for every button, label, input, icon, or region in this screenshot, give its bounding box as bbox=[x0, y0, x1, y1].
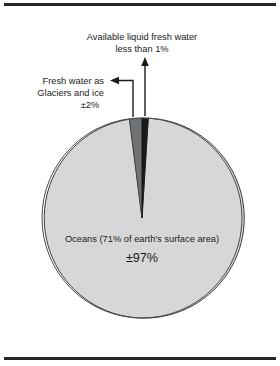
left-leader-line bbox=[116, 81, 133, 118]
left-label-line3: ±2% bbox=[81, 100, 100, 110]
oceans-label-value: ±97% bbox=[126, 251, 158, 265]
top-label-line2: less than 1% bbox=[115, 44, 168, 54]
left-annotation: Fresh water as Glaciers and ice ±2% bbox=[37, 76, 133, 117]
left-leader-arrowhead-icon bbox=[110, 77, 119, 85]
left-label-line1: Fresh water as bbox=[43, 76, 105, 86]
top-label-line1: Available liquid fresh water bbox=[87, 32, 197, 42]
figure-container: Available liquid fresh water less than 1… bbox=[0, 0, 280, 366]
top-annotation: Available liquid fresh water less than 1… bbox=[87, 32, 197, 116]
pie-chart-svg: Available liquid fresh water less than 1… bbox=[0, 0, 280, 366]
oceans-label-line1: Oceans (71% of earth's surface area) bbox=[65, 234, 219, 244]
top-leader-arrowhead-icon bbox=[141, 57, 149, 66]
left-label-line2: Glaciers and ice bbox=[37, 88, 104, 98]
pie-group bbox=[42, 118, 244, 318]
